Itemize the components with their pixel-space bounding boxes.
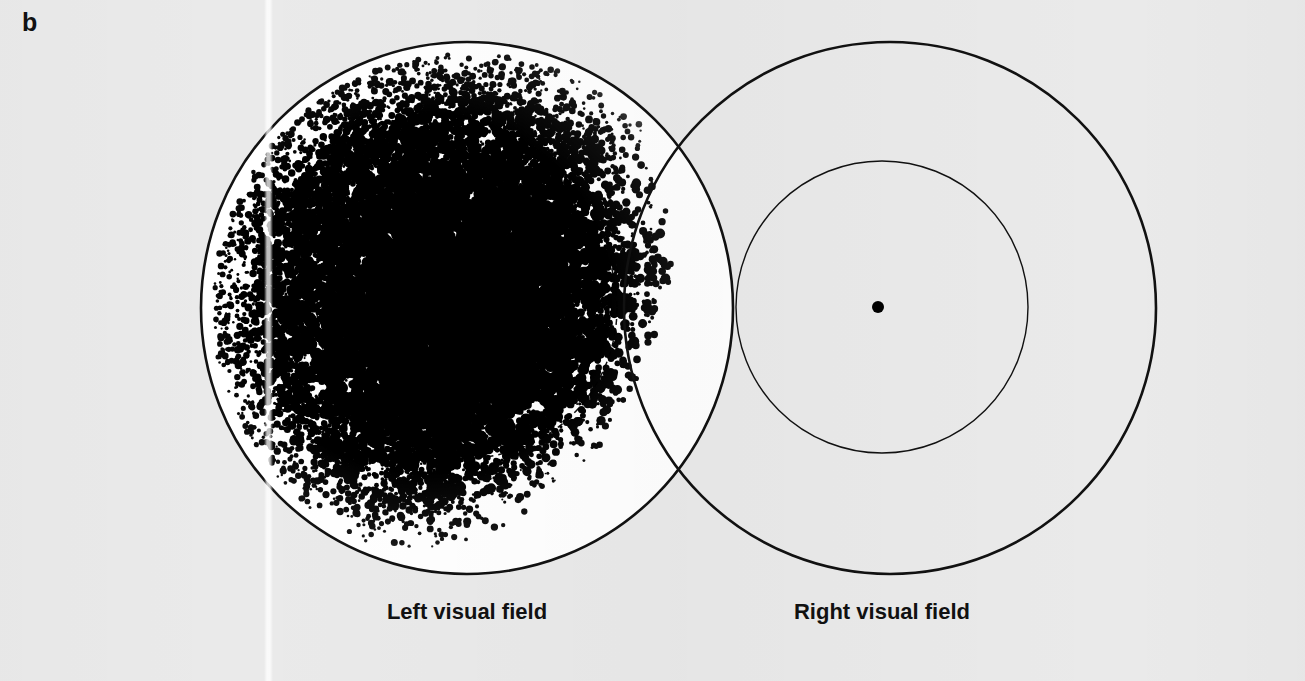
left-visual-field-caption: Left visual field [367, 600, 567, 624]
right-visual-field-group [624, 42, 1156, 574]
visual-field-diagram [0, 0, 1305, 681]
right-visual-field-circle [624, 42, 1156, 574]
panel-label: b [22, 10, 37, 35]
right-visual-field-caption: Right visual field [782, 600, 982, 624]
figure-root: b Left visual field Right visual field [0, 0, 1305, 681]
fixation-dot [872, 301, 884, 313]
